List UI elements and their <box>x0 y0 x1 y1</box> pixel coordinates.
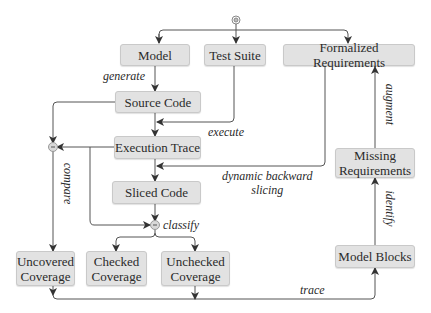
label-execute: execute <box>208 125 244 139</box>
edge-source-to-compare <box>53 102 115 143</box>
node-execution-trace: Execution Trace <box>114 136 201 159</box>
node-checked-coverage: Checked Coverage <box>86 251 147 286</box>
node-test-suite: Test Suite <box>204 44 266 66</box>
label-identify: identify <box>382 184 397 234</box>
label-dynamic-backward-slicing: dynamic backward slicing <box>222 169 313 197</box>
label-augment: augment <box>382 80 397 130</box>
node-model: Model <box>120 44 190 66</box>
label-compare: compare <box>60 159 75 209</box>
label-generate: generate <box>103 69 145 83</box>
edge-classify-to-unchecked <box>155 233 195 251</box>
node-formalized-requirements: Formalized Requirements <box>283 44 415 66</box>
label-trace: trace <box>300 283 325 297</box>
node-missing-requirements: Missing Requirements <box>335 148 415 178</box>
classify-merge-node <box>151 221 160 230</box>
node-uncovered-coverage: Uncovered Coverage <box>16 251 75 286</box>
node-source-code: Source Code <box>115 91 201 113</box>
label-classify: classify <box>163 218 199 232</box>
node-model-blocks: Model Blocks <box>335 245 415 268</box>
workflow-diagram: Model Test Suite Formalized Requirements… <box>0 0 431 313</box>
compare-merge-node <box>49 143 58 152</box>
edge-classify-to-checked <box>116 229 155 251</box>
node-sliced-code: Sliced Code <box>112 181 201 204</box>
node-unchecked-coverage: Unchecked Coverage <box>161 251 230 286</box>
